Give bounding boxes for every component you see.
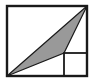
figure-background xyxy=(0,0,93,80)
geometry-diagram xyxy=(0,0,93,80)
figure-container xyxy=(0,0,93,80)
